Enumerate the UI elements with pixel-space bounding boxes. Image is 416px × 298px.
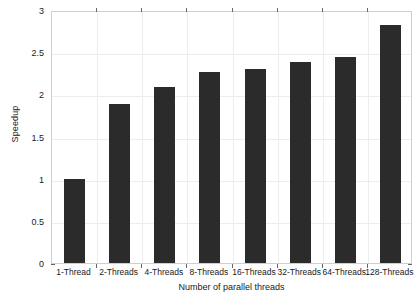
x-axis-tick-label: 128-Threads — [365, 267, 413, 277]
x-axis-tick-mark-top — [96, 8, 97, 12]
y-axis-tick-label: 1.5 — [4, 133, 44, 143]
y-axis-tick-label: 0 — [4, 259, 44, 269]
bar — [109, 104, 130, 263]
x-axis-tick-mark-top — [367, 8, 368, 12]
y-axis-tick-label: 1 — [4, 175, 44, 185]
plot-area — [51, 11, 412, 264]
bar — [154, 87, 175, 263]
bar-chart-figure: Speedup 00.511.522.53 1-Thread2-Threads4… — [0, 0, 416, 298]
x-axis-tick-mark — [141, 264, 142, 268]
x-axis-tick-mark-top — [322, 8, 323, 12]
x-axis-title: Number of parallel threads — [51, 282, 412, 292]
y-axis-tick-mark-right — [408, 264, 412, 265]
bar-series — [52, 12, 411, 263]
x-axis-tick-label: 1-Thread — [56, 267, 91, 277]
x-axis-tick-label: 64-Threads — [323, 267, 366, 277]
x-axis-tick-mark — [96, 264, 97, 268]
bar — [335, 57, 356, 263]
bar — [290, 62, 311, 263]
bar — [64, 179, 85, 263]
x-axis-tick-label: 4-Threads — [144, 267, 183, 277]
bar — [199, 72, 220, 263]
x-axis-tick-mark-top — [232, 8, 233, 12]
x-axis-tick-label: 2-Threads — [99, 267, 138, 277]
x-axis-tick-label: 16-Threads — [232, 267, 275, 277]
y-axis-tick-mark — [51, 264, 55, 265]
x-axis-tick-mark-top — [277, 8, 278, 12]
x-axis-tick-label: 8-Threads — [190, 267, 229, 277]
y-axis-tick-label: 3 — [4, 6, 44, 16]
x-axis-tick-mark — [186, 264, 187, 268]
y-axis-tick-label: 2 — [4, 90, 44, 100]
y-axis-tick-label: 2.5 — [4, 48, 44, 58]
x-axis-tick-mark-top — [186, 8, 187, 12]
y-axis-tick-label: 0.5 — [4, 217, 44, 227]
x-axis-tick-label: 32-Threads — [277, 267, 320, 277]
bar — [245, 69, 266, 263]
bar — [380, 25, 401, 263]
x-axis-tick-mark-top — [141, 8, 142, 12]
